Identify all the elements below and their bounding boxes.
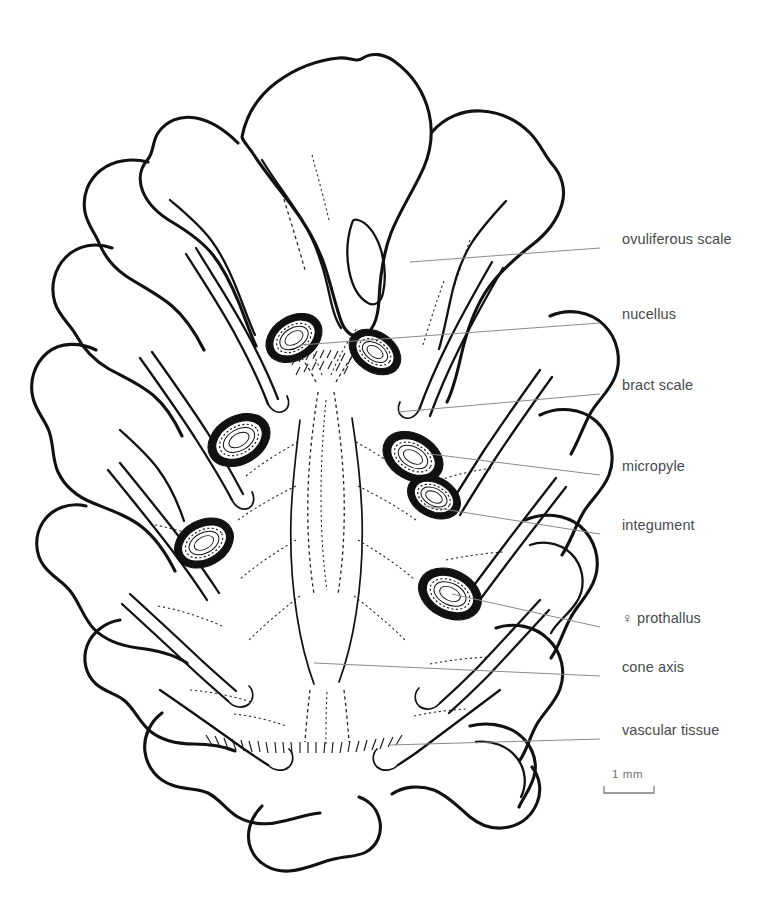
leader-ovuliferous-scale (410, 248, 600, 262)
scale-bar (604, 786, 654, 793)
scale-left-5-tip (268, 749, 293, 770)
scale-bar-caption: 1 mm (612, 768, 643, 780)
scale-right-bottom-inner (476, 742, 525, 797)
label-nucellus: nucellus (622, 307, 676, 322)
scale-top-center-fold (262, 160, 341, 328)
bract-right-2 (448, 370, 540, 508)
scale-bottom-left (145, 713, 320, 824)
scale-right-upper (550, 312, 618, 454)
label-vascular-tissue: vascular tissue (622, 723, 719, 738)
ovule-lower-right (410, 558, 490, 630)
cone-body (32, 54, 619, 871)
leader-micropyle (430, 454, 600, 475)
scale-left-upper (53, 245, 182, 436)
ovule-mid-left (198, 403, 279, 478)
scale-right-uppermid (540, 409, 612, 555)
scale-bar-bracket (604, 786, 654, 793)
scale-top-right-inner (439, 201, 506, 349)
label-prothallus: ♀ prothallus (622, 611, 701, 626)
scale-top-center (242, 54, 431, 336)
scale-left-4-tip (228, 686, 253, 707)
scale-right-mid (525, 515, 597, 658)
ovscale-right-3 (469, 487, 566, 615)
ovscale-left-1 (196, 248, 278, 399)
label-cone-axis: cone axis (622, 660, 684, 675)
bract-right-5 (398, 690, 500, 765)
scale-right-5-tip (373, 749, 398, 770)
cone-axis-left-edge (291, 420, 314, 684)
label-bract-scale: bract scale (622, 378, 693, 393)
label-ovuliferous-scale: ovuliferous scale (622, 232, 732, 247)
scale-right-bottom (470, 724, 535, 807)
scale-right-4-tip (415, 688, 440, 709)
ovscale-right-4 (449, 610, 549, 713)
scale-right-lower (496, 625, 563, 760)
scale-bottom-center (248, 797, 380, 871)
figure-root: ovuliferous scale nucellus bract scale m… (0, 0, 765, 903)
leader-cone-axis (314, 663, 600, 676)
label-micropyle: micropyle (622, 459, 685, 474)
ovule-upper-right (341, 320, 410, 384)
ovule-lower-left (166, 508, 242, 578)
scale-top-right (432, 111, 564, 402)
scale-top-left (140, 117, 256, 346)
ovscale-left-4 (130, 594, 236, 691)
cone-section-drawing (0, 0, 765, 903)
scale-left-lower (37, 505, 187, 663)
scale-right-mid-inner (530, 543, 583, 633)
ovules (166, 303, 490, 630)
label-integument: integument (622, 518, 695, 533)
bract-left-4 (122, 604, 228, 701)
scale-bottom-right (392, 767, 540, 828)
ovscale-right-2 (460, 377, 552, 515)
